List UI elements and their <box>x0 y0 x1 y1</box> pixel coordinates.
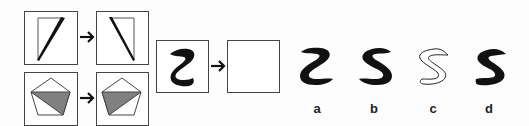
option-b-label[interactable]: b <box>364 101 384 116</box>
option-c-shape[interactable] <box>414 45 454 87</box>
option-a-shape[interactable] <box>297 45 337 87</box>
triangle-mirrored-shape-icon <box>97 12 148 64</box>
squiggle-s-outline-icon <box>414 45 454 87</box>
example1-after-box <box>96 11 149 65</box>
answer-box[interactable] <box>227 40 280 93</box>
option-c-label[interactable]: c <box>423 101 443 116</box>
squiggle-z-icon <box>297 45 337 87</box>
squiggle-z-shape-icon <box>157 41 208 92</box>
pentagon-shape-icon <box>25 73 77 125</box>
example1-before-box <box>24 11 78 65</box>
arrow-icon <box>79 31 95 43</box>
arrow-icon <box>79 92 95 104</box>
squiggle-s-icon <box>355 45 395 87</box>
example2-before-box <box>24 72 78 126</box>
arrow-icon <box>210 60 226 72</box>
pentagon-mirrored-shape-icon <box>97 73 148 125</box>
triangle-shape-icon <box>25 12 77 64</box>
example2-after-box <box>96 72 149 126</box>
option-d-shape[interactable] <box>470 45 510 87</box>
option-b-shape[interactable] <box>355 45 395 87</box>
option-d-label[interactable]: d <box>479 101 499 116</box>
squiggle-s-bold-icon <box>470 45 510 87</box>
option-a-label[interactable]: a <box>307 101 327 116</box>
question-box <box>156 40 209 93</box>
